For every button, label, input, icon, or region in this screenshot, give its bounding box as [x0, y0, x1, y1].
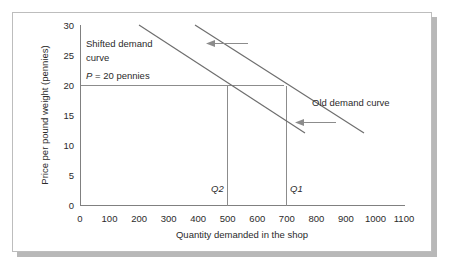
xtick-label-300: 300 [161, 213, 177, 224]
q1-label-number: 1 [297, 183, 302, 194]
x-axis-title: Quantity demanded in the shop [176, 229, 308, 240]
ytick-label-15: 15 [63, 110, 74, 121]
ytick-label-30: 30 [63, 20, 74, 31]
xtick-label-200: 200 [131, 213, 147, 224]
demand-curve-chart: 30 25 20 15 10 5 0 0 100 200 300 400 500… [0, 0, 450, 269]
q2-label: Q2 [211, 183, 224, 194]
ytick-label-25: 25 [63, 50, 74, 61]
xtick-label-100: 100 [102, 213, 118, 224]
ytick-label-20: 20 [63, 80, 74, 91]
xtick-label-600: 600 [249, 213, 265, 224]
price-label: P = 20 pennies [86, 70, 150, 81]
ytick-label-5: 5 [69, 170, 74, 181]
ytick-label-10: 10 [63, 140, 74, 151]
shift-arrow-lower [295, 119, 336, 126]
figure-root: 30 25 20 15 10 5 0 0 100 200 300 400 500… [0, 0, 450, 269]
xtick-label-1100: 1100 [394, 213, 414, 224]
xtick-label-1000: 1000 [365, 213, 386, 224]
shifted-demand-label-line1: Shifted demand [86, 38, 153, 49]
q2-label-number: 2 [217, 183, 224, 194]
old-demand-label: Old demand curve [312, 97, 390, 108]
q1-label: Q1 [290, 183, 303, 194]
xtick-label-900: 900 [338, 213, 354, 224]
ytick-label-0: 0 [69, 200, 74, 211]
xtick-label-0: 0 [77, 213, 82, 224]
xtick-label-500: 500 [220, 213, 236, 224]
y-axis-title: Price per pound weight (pennies) [39, 45, 50, 184]
xtick-label-800: 800 [308, 213, 324, 224]
price-label-rest: = 20 pennies [92, 70, 150, 81]
plot-area: 30 25 20 15 10 5 0 0 100 200 300 400 500… [0, 0, 450, 269]
xtick-label-700: 700 [279, 213, 295, 224]
shifted-demand-label-line2: curve [86, 52, 109, 63]
xtick-label-400: 400 [190, 213, 206, 224]
